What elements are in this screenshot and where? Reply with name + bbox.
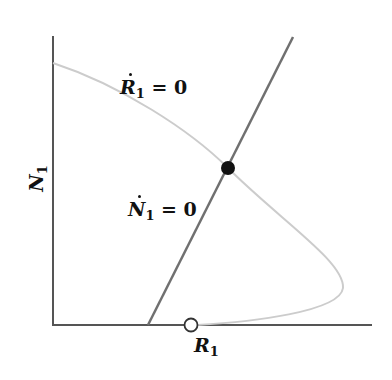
stable-equilibrium-point [221, 161, 235, 175]
phase-plane-plot [0, 0, 392, 380]
x-axis-label: R1 [194, 334, 219, 359]
n-nullcline-label: N1 = 0 [128, 198, 197, 223]
y-axis-label: N1 [25, 165, 50, 191]
r-nullcline-curve [53, 63, 343, 325]
unstable-equilibrium-point [185, 319, 198, 332]
r-nullcline-label: R1 = 0 [120, 76, 187, 101]
